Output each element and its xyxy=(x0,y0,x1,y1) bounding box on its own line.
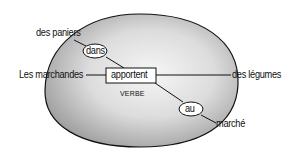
label-verb: apportent xyxy=(111,70,147,80)
label-object: des légumes xyxy=(232,70,281,80)
label-prep2: au xyxy=(185,104,195,114)
label-prep1-object: des paniers xyxy=(36,28,81,38)
label-subject: Les marchandes xyxy=(19,70,83,80)
label-prep1: dans xyxy=(86,46,105,56)
label-prep2-object: marché xyxy=(216,119,245,129)
label-verb-category: VERBE xyxy=(120,90,145,97)
